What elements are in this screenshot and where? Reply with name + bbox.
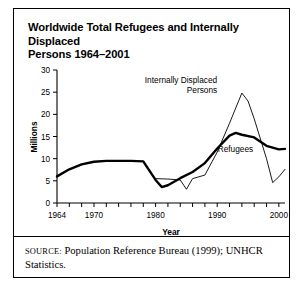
y-tick-label: 20 — [41, 110, 51, 119]
y-tick-label: 30 — [41, 66, 51, 75]
y-axis-title: Millions — [29, 121, 39, 153]
y-tick-label: 0 — [45, 199, 50, 208]
source-note: SOURCE: Population Reference Bureau (199… — [25, 245, 281, 271]
figure-container: Worldwide Total Refugees and Internally … — [0, 0, 303, 292]
y-tick-label: 25 — [41, 88, 51, 97]
x-axis: 19641970198019902000 Year — [48, 203, 288, 236]
x-axis-title: Year — [162, 227, 180, 236]
x-tick-label: 1980 — [146, 211, 165, 220]
x-axis-tick-labels: 19641970198019902000 — [48, 211, 288, 220]
series-line-internally-displaced-persons — [156, 93, 285, 189]
source-divider — [14, 236, 289, 237]
source-label: SOURCE: — [25, 247, 62, 256]
x-tick-label: 2000 — [270, 211, 289, 220]
idp-series-label-line1: Internally Displaced — [145, 75, 218, 85]
y-axis: 051015202530 Millions — [29, 66, 57, 208]
x-tick-label: 1970 — [85, 211, 104, 220]
y-tick-label: 15 — [41, 133, 51, 142]
x-tick-label: 1964 — [48, 211, 67, 220]
data-series-group — [57, 93, 285, 189]
y-tick-label: 5 — [45, 177, 50, 186]
y-tick-label: 10 — [41, 155, 51, 164]
line-chart-plot: 051015202530 Millions 196419701980199020… — [13, 8, 290, 236]
refugees-series-label: Refugees — [218, 144, 254, 154]
y-axis-ticks — [53, 70, 57, 203]
y-axis-tick-labels: 051015202530 — [41, 66, 51, 208]
x-axis-ticks — [57, 203, 279, 207]
idp-series-label-line2: Persons — [187, 85, 217, 95]
series-annotations: Internally Displaced Persons Refugees — [145, 75, 253, 153]
x-tick-label: 1990 — [208, 211, 227, 220]
